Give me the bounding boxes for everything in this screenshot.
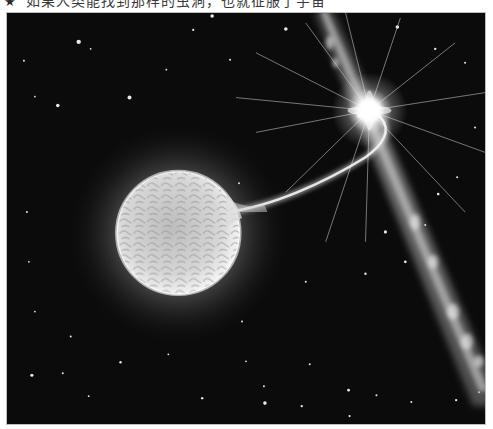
caption-text: 如果人类能找到那样的虫洞，也就征服了宇宙 [26, 0, 326, 9]
figure-caption: ★如果人类能找到那样的虫洞，也就征服了宇宙 [4, 0, 326, 9]
compact-star [332, 73, 408, 149]
space-illustration [6, 12, 486, 425]
star-bullet-icon: ★ [4, 0, 26, 10]
giant-star [117, 171, 242, 294]
